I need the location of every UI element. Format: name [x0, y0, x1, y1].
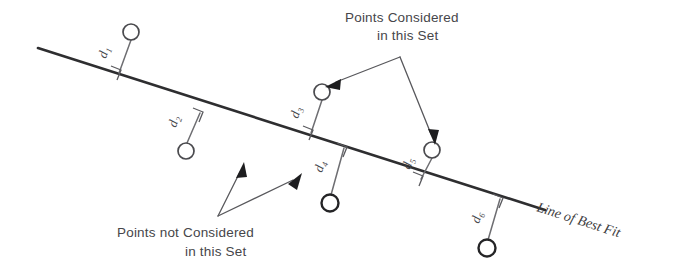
considered-pointer-right-line — [400, 57, 431, 134]
line-of-best-fit-diagram: d 1 d 2 d 3 d 4 — [0, 0, 680, 279]
not-considered-pointer-left-line — [218, 172, 240, 216]
not-considered-annotation-group: Points not Considered in this Set — [117, 225, 254, 259]
data-point-group-5: d 5 — [399, 142, 440, 186]
right-angle-marker-d2 — [193, 108, 203, 122]
data-point-group-4: d 4 — [311, 143, 347, 212]
residual-line-d6 — [488, 199, 500, 240]
considered-annotation-line2: in this Set — [377, 28, 439, 43]
data-point-marker-1 — [123, 24, 139, 40]
data-point-group-3: d 3 — [287, 84, 330, 140]
residual-line-d2 — [187, 113, 200, 143]
not-considered-pointer-right-line — [218, 180, 293, 216]
considered-pointer-group — [325, 57, 439, 145]
data-point-marker-4 — [322, 195, 339, 212]
best-fit-line-label-group: Line of Best Fit — [534, 199, 623, 240]
data-point-marker-2 — [178, 143, 194, 159]
data-point-group-6: d 6 — [468, 194, 503, 257]
residual-line-d4 — [331, 148, 344, 195]
not-considered-annotation-line1: Points not Considered — [117, 225, 254, 240]
right-angle-marker-d5 — [413, 172, 423, 186]
considered-annotation-group: Points Considered in this Set — [345, 10, 459, 43]
best-fit-line-label: Line of Best Fit — [534, 199, 623, 240]
considered-pointer-left-line — [336, 57, 400, 82]
data-point-group-2: d 2 — [165, 108, 203, 159]
residual-line-d3 — [311, 100, 322, 133]
not-considered-pointer-group — [218, 162, 302, 216]
data-point-marker-6 — [479, 240, 496, 257]
residual-line-d1 — [119, 40, 131, 73]
not-considered-pointer-left-arrowhead — [236, 162, 247, 178]
not-considered-annotation-line2: in this Set — [185, 244, 247, 259]
data-point-group-1: d 1 — [95, 24, 139, 80]
data-point-marker-5 — [424, 142, 440, 158]
considered-annotation-line1: Points Considered — [345, 10, 459, 25]
